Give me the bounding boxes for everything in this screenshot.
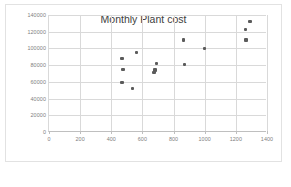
x-axis-tick [205, 131, 206, 134]
plot-area: 020000400006000080000100000120000140000 … [48, 15, 266, 132]
x-axis-tick [174, 131, 175, 134]
chart-frame: Monthly Plant cost 020000400006000080000… [5, 4, 282, 162]
scatter-point [244, 28, 247, 31]
scatter-point [120, 57, 123, 60]
scatter-point [203, 47, 206, 50]
x-axis-tick-label: 800 [169, 136, 178, 142]
scatter-point [120, 81, 123, 84]
gridline-horizontal [49, 82, 266, 83]
gridline-horizontal [49, 32, 266, 33]
x-axis-tick [49, 131, 50, 134]
gridline-vertical [267, 15, 268, 131]
y-axis-tick-label: 20000 [31, 112, 47, 118]
scatter-point [135, 51, 138, 54]
x-axis-tick-label: 1400 [261, 136, 273, 142]
scatter-point [182, 38, 185, 41]
gridline-vertical [205, 15, 206, 131]
x-axis-tick [267, 131, 268, 134]
x-axis-tick-label: 600 [138, 136, 147, 142]
x-axis-tick [142, 131, 143, 134]
gridline-horizontal [49, 99, 266, 100]
y-axis-tick-label: 120000 [27, 29, 46, 35]
gridline-vertical [142, 15, 143, 131]
y-axis-tick-label: 100000 [27, 45, 46, 51]
scatter-point [155, 62, 158, 65]
x-axis-tick-label: 400 [107, 136, 116, 142]
x-axis-tick-label: 200 [75, 136, 84, 142]
gridline-vertical [236, 15, 237, 131]
scatter-point [153, 68, 156, 71]
x-axis-tick [236, 131, 237, 134]
gridline-horizontal [49, 65, 266, 66]
x-axis-tick [80, 131, 81, 134]
gridline-vertical [80, 15, 81, 131]
scatter-point [121, 68, 124, 71]
y-axis-tick-label: 60000 [31, 79, 47, 85]
y-axis-tick-label: 40000 [31, 96, 47, 102]
scatter-point [131, 87, 134, 90]
scatter-point [248, 20, 251, 23]
scatter-point [244, 38, 247, 41]
scatter-point [183, 63, 186, 66]
gridline-horizontal [49, 48, 266, 49]
gridline-horizontal [49, 15, 266, 16]
gridline-horizontal [49, 115, 266, 116]
gridline-vertical [111, 15, 112, 131]
x-axis-tick-label: 0 [47, 136, 50, 142]
x-axis-tick-label: 1200 [230, 136, 242, 142]
y-axis-tick-label: 140000 [27, 12, 46, 18]
x-axis-tick-label: 1000 [199, 136, 211, 142]
gridline-vertical [174, 15, 175, 131]
y-axis-tick-label: 80000 [31, 62, 47, 68]
x-axis-tick [111, 131, 112, 134]
y-axis-tick-label: 0 [43, 129, 46, 135]
